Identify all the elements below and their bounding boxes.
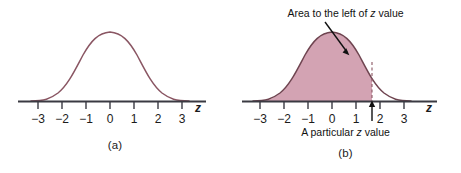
tick-label-a-4: 1 bbox=[131, 112, 138, 126]
x-axis-label-b: z bbox=[425, 101, 432, 115]
x-axis-ticks-a bbox=[38, 102, 182, 110]
tick-label-b-6: 3 bbox=[401, 112, 408, 126]
panel-a-caption: (a) bbox=[0, 139, 230, 151]
annotation-bottom-text-pre: A particular bbox=[301, 126, 356, 138]
tick-label-a-6: 3 bbox=[179, 112, 186, 126]
tick-label-b-0: −3 bbox=[253, 112, 267, 126]
panel-b-caption: (b) bbox=[230, 147, 461, 159]
panel-b-shaded-normal-curve: Area to the left of z value bbox=[230, 0, 461, 173]
tick-label-a-5: 2 bbox=[155, 112, 162, 126]
normal-distribution-figure: −3 −2 −1 0 1 2 3 z (a) Area to the left … bbox=[0, 0, 461, 173]
tick-label-a-2: −1 bbox=[79, 112, 93, 126]
tick-label-b-4: 1 bbox=[353, 112, 360, 126]
tick-label-a-1: −2 bbox=[55, 112, 69, 126]
x-axis-ticks-b bbox=[260, 102, 404, 110]
shaded-area-left-of-z bbox=[253, 33, 411, 102]
x-axis-label-a: z bbox=[194, 101, 201, 115]
normal-curve-a bbox=[31, 32, 189, 101]
tick-label-b-3: 0 bbox=[329, 112, 336, 126]
annotation-particular-z-value: A particular z value bbox=[230, 126, 461, 138]
particular-z-value-arrow bbox=[369, 101, 375, 122]
annotation-bottom-text-post: value bbox=[362, 126, 390, 138]
tick-label-a-0: −3 bbox=[31, 112, 45, 126]
tick-label-a-3: 0 bbox=[107, 112, 114, 126]
tick-label-b-5: 2 bbox=[377, 112, 384, 126]
tick-label-b-1: −2 bbox=[277, 112, 291, 126]
panel-a-unshaded-normal-curve: −3 −2 −1 0 1 2 3 z (a) bbox=[0, 0, 230, 173]
tick-label-b-2: −1 bbox=[301, 112, 315, 126]
